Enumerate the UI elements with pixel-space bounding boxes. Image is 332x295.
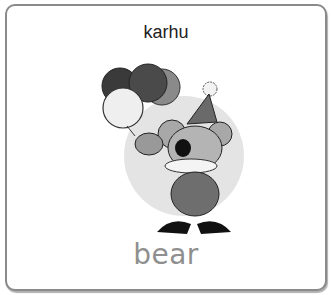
flashcard: karhu bear — [5, 4, 327, 291]
english-word: bear — [7, 238, 325, 271]
clown-bear-illustration — [87, 56, 247, 236]
foreign-word: karhu — [7, 22, 325, 43]
